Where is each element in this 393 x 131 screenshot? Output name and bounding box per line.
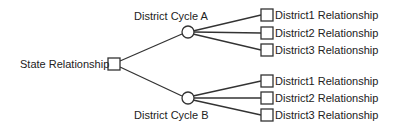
edge-b-d1 [193,81,261,96]
cycle-b-circle-node [182,92,194,104]
a-district3-label: District3 Relationship [275,44,378,56]
b-district2-label: District2 Relationship [275,92,378,104]
edge-a-d2 [194,32,261,33]
root-label: State Relationship [20,58,109,70]
edge-a-d3 [193,34,261,50]
root-square-node [108,58,120,70]
b-district1-label: District1 Relationship [275,75,378,87]
b-district3-square-node [261,109,273,121]
b-district1-square-node [261,75,273,87]
a-district1-square-node [261,9,273,21]
edge-root-cycle-b [120,67,182,96]
a-district2-label: District2 Relationship [275,27,378,39]
edge-root-cycle-a [120,34,182,61]
b-district3-label: District3 Relationship [275,109,378,121]
b-district2-square-node [261,92,273,104]
a-district2-square-node [261,27,273,39]
a-district3-square-node [261,44,273,56]
cycle-a-label: District Cycle A [134,10,208,22]
cycle-a-circle-node [182,26,194,38]
cycle-b-label: District Cycle B [134,109,209,121]
a-district1-label: District1 Relationship [275,9,378,21]
